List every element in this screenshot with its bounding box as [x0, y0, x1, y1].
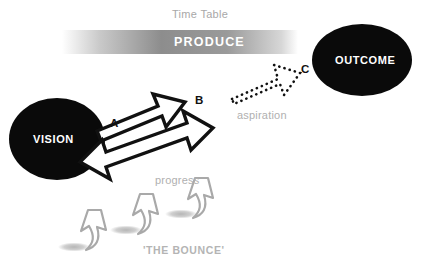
vision-node-label: VISION [33, 134, 74, 145]
outcome-node-label: OUTCOME [335, 55, 395, 66]
time-table-label: Time Table [172, 9, 228, 20]
bounce-label: 'THE BOUNCE' [143, 245, 225, 256]
bounce-shadow-2 [110, 226, 142, 235]
aspiration-arrow [232, 65, 300, 104]
keypoint-b-label: B [195, 95, 203, 107]
keypoint-a-label: A [110, 118, 118, 130]
aspiration-label: aspiration [237, 110, 287, 121]
diagram-canvas: Time Table PRODUCE VISION OUTCOME A B C … [0, 0, 421, 269]
produce-band-label: PRODUCE [174, 36, 245, 49]
progress-label: progress [155, 175, 199, 186]
bounce-shadow-3 [165, 210, 197, 219]
keypoint-c-label: C [301, 64, 309, 76]
